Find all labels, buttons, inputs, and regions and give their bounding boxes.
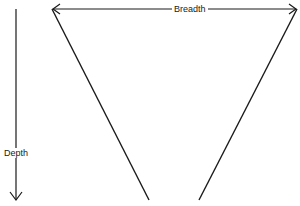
depth-label: Depth [2, 148, 30, 158]
depth-arrow [10, 9, 22, 200]
v-left-side [52, 9, 149, 200]
breadth-depth-diagram [0, 0, 300, 206]
breadth-label: Breadth [172, 4, 208, 14]
v-right-side [199, 9, 297, 200]
